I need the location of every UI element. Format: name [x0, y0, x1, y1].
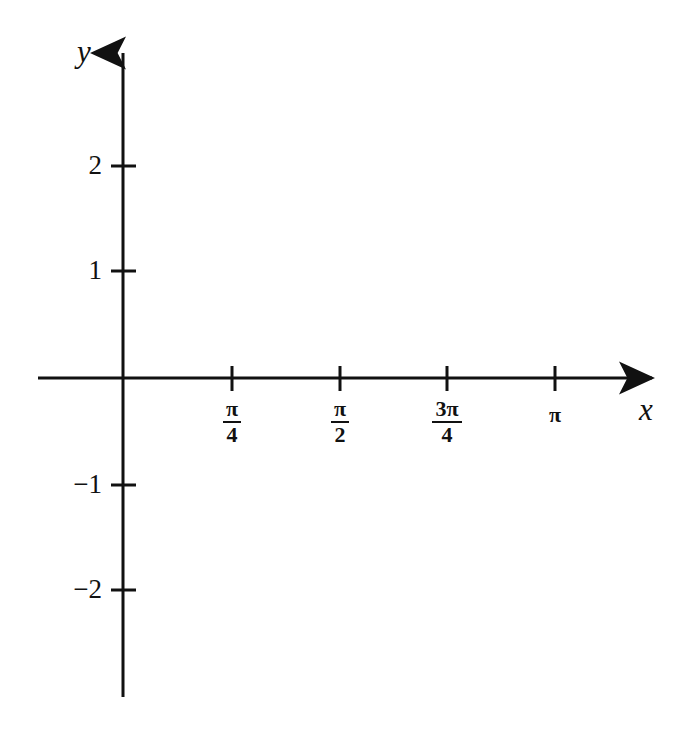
fraction-denominator: 2: [331, 423, 349, 446]
pi-symbol: π: [549, 404, 561, 426]
fraction-3pi-over-4: 3π 4: [432, 398, 461, 447]
fraction-numerator: π: [331, 398, 349, 423]
y-tick-label-1: 1: [62, 257, 102, 284]
y-tick-label-2: 2: [62, 152, 102, 179]
x-tick-label-pi-over-2: π 2: [310, 398, 370, 447]
fraction-pi-over-2: π 2: [331, 398, 349, 447]
y-tick-label-minus-1: −1: [52, 471, 102, 498]
fraction-pi-over-4: π 4: [223, 398, 241, 447]
x-tick-label-pi-over-4: π 4: [202, 398, 262, 447]
x-tick-label-3pi-over-4: 3π 4: [415, 398, 479, 447]
fraction-denominator: 4: [223, 423, 241, 446]
y-axis-label: y: [77, 36, 91, 67]
axes-plot-svg: [0, 0, 692, 740]
graph-figure: y x 2 1 −1 −2 π 4 π 2 3π 4 π: [0, 0, 692, 740]
x-axis-label: x: [639, 394, 653, 425]
x-tick-label-pi: π: [525, 404, 585, 426]
fraction-numerator: π: [223, 398, 241, 423]
y-tick-label-minus-2: −2: [52, 576, 102, 603]
fraction-denominator: 4: [432, 423, 461, 446]
fraction-numerator: 3π: [432, 398, 461, 423]
